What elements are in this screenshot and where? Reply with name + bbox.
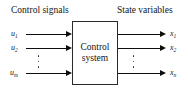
control-system-block: Control system <box>72 21 118 85</box>
output-arrow-x1-head <box>160 31 166 37</box>
output-arrow-xn <box>118 70 166 77</box>
output-ellipsis-dot <box>133 66 135 68</box>
output-label-x2: x2 <box>170 44 176 52</box>
state-variables-title: State variables <box>117 5 173 15</box>
output-label-x1-sub: 1 <box>174 33 177 39</box>
output-arrow-x2 <box>118 45 166 52</box>
output-arrow-x2-shaft <box>118 48 160 50</box>
input-label-u2: u2 <box>11 44 18 52</box>
output-label-xn: xn <box>170 69 176 77</box>
input-arrow-um-shaft <box>26 73 66 75</box>
input-ellipsis-dot <box>38 61 40 63</box>
input-ellipsis-icon <box>37 55 40 68</box>
output-arrow-x1 <box>118 31 166 38</box>
output-arrow-xn-head <box>160 70 166 76</box>
control-system-label-line2: system <box>82 53 108 64</box>
output-arrow-x1-shaft <box>118 34 160 36</box>
input-ellipsis-dot <box>38 66 40 68</box>
output-label-x2-sub: 2 <box>174 47 177 53</box>
input-ellipsis-dot <box>38 55 40 57</box>
output-ellipsis-icon <box>132 55 135 68</box>
control-signals-title: Control signals <box>11 5 69 15</box>
output-arrow-xn-shaft <box>118 73 160 75</box>
block-diagram: Control signals State variables u1 u2 um… <box>0 0 188 96</box>
input-arrow-u1 <box>26 31 72 38</box>
input-arrow-u1-shaft <box>26 34 66 36</box>
input-label-u1-sub: 1 <box>15 33 18 39</box>
input-arrow-um <box>26 70 72 77</box>
input-label-um-sub: m <box>14 72 18 78</box>
input-arrow-u2 <box>26 45 72 52</box>
output-ellipsis-dot <box>133 61 135 63</box>
output-label-xn-sub: n <box>174 72 177 78</box>
output-ellipsis-dot <box>133 55 135 57</box>
input-label-u2-sub: 2 <box>15 47 18 53</box>
input-arrow-u2-shaft <box>26 48 66 50</box>
control-system-label-line1: Control <box>80 42 109 53</box>
input-label-u1: u1 <box>11 30 18 38</box>
output-label-x1: x1 <box>170 30 176 38</box>
output-arrow-x2-head <box>160 45 166 51</box>
input-label-um: um <box>10 69 18 77</box>
